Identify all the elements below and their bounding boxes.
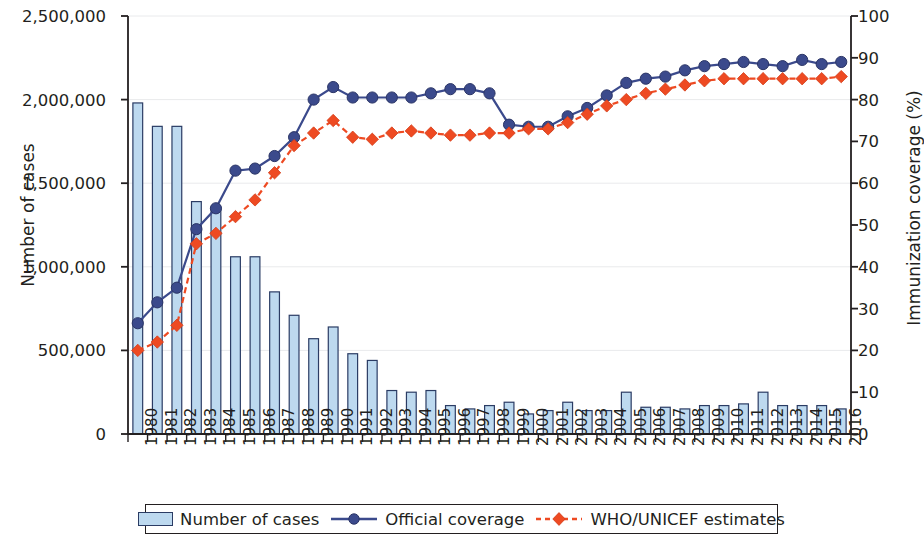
x-axis-tick-label: 1980 <box>143 408 161 446</box>
x-axis-tick-label: 1999 <box>515 408 533 446</box>
x-axis-tick-label: 2013 <box>788 408 806 446</box>
x-axis-tick-label: 2015 <box>827 408 845 446</box>
x-axis-tick-label: 1997 <box>475 408 493 446</box>
x-axis-tick-label: 1983 <box>202 408 220 446</box>
x-axis-tick-label: 1987 <box>280 408 298 446</box>
right-axis-title: Immunization coverage (%) <box>904 38 924 378</box>
x-axis-tick-label: 1985 <box>241 408 259 446</box>
x-axis-tick-label: 1990 <box>339 408 357 446</box>
x-axis-tick-label: 2008 <box>690 408 708 446</box>
legend-label-official-coverage: Official coverage <box>385 510 524 529</box>
legend-item-number-of-cases: Number of cases <box>138 510 319 529</box>
x-axis-tick-label: 1996 <box>456 408 474 446</box>
x-axis-tick-label: 1988 <box>300 408 318 446</box>
x-axis-tick-label: 2003 <box>593 408 611 446</box>
x-axis-tick-label: 2009 <box>710 408 728 446</box>
x-axis-tick-label: 1989 <box>319 408 337 446</box>
x-axis-tick-label: 2007 <box>671 408 689 446</box>
legend-bar-swatch-icon <box>138 512 173 526</box>
x-axis-tick-label: 1993 <box>397 408 415 446</box>
x-axis-tick-label: 2010 <box>729 408 747 446</box>
legend-item-who-unicef-estimates: WHO/UNICEF estimates <box>535 510 784 529</box>
legend-official-line-icon <box>330 511 378 527</box>
x-axis-tick-label: 1982 <box>182 408 200 446</box>
x-axis-tick-label: 2016 <box>847 408 865 446</box>
x-axis-tick-label: 2012 <box>769 408 787 446</box>
x-axis-tick-label: 2000 <box>534 408 552 446</box>
x-axis-tick-label: 2011 <box>749 408 767 446</box>
x-axis-tick-label: 1995 <box>436 408 454 446</box>
x-axis-tick-label: 1984 <box>221 408 239 446</box>
x-axis-tick-label: 2006 <box>651 408 669 446</box>
legend-item-official-coverage: Official coverage <box>330 510 524 529</box>
x-axis-tick-label: 2004 <box>612 408 630 446</box>
x-axis-tick-label: 2002 <box>573 408 591 446</box>
x-axis-tick-label: 1998 <box>495 408 513 446</box>
x-axis-tick-label: 1991 <box>358 408 376 446</box>
left-axis-title: Number of cases <box>18 95 38 335</box>
legend-label-who-unicef-estimates: WHO/UNICEF estimates <box>590 510 784 529</box>
x-axis-tick-label: 1992 <box>378 408 396 446</box>
legend-label-number-of-cases: Number of cases <box>180 510 319 529</box>
chart-legend: Number of cases Official coverage WHO/UN… <box>145 504 778 534</box>
x-axis-tick-label: 1986 <box>261 408 279 446</box>
x-axis-tick-label: 2001 <box>554 408 572 446</box>
x-axis-tick-label: 2014 <box>808 408 826 446</box>
legend-estimates-line-icon <box>535 511 583 527</box>
x-axis-tick-label: 2005 <box>632 408 650 446</box>
x-axis-tick-label: 1981 <box>163 408 181 446</box>
x-axis-tick-label: 1994 <box>417 408 435 446</box>
